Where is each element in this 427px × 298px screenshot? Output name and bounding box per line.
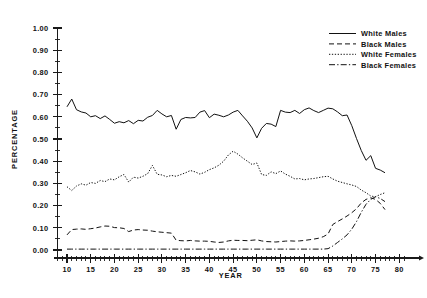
legend-label-black-males: Black Males xyxy=(361,40,407,49)
x-tick-label: 40 xyxy=(205,265,214,274)
legend-label-white-males: White Males xyxy=(361,29,407,38)
x-tick-label: 65 xyxy=(324,265,333,274)
x-tick-label: 55 xyxy=(276,265,285,274)
y-tick-label: 0.00 xyxy=(33,246,49,255)
line-chart: 0.000.100.200.300.400.500.600.700.800.90… xyxy=(0,0,427,298)
x-tick-label: 75 xyxy=(371,265,380,274)
x-tick-label: 70 xyxy=(347,265,356,274)
y-tick-label: 0.50 xyxy=(33,135,49,144)
y-tick-label: 0.80 xyxy=(33,68,49,77)
y-tick-label: 0.40 xyxy=(33,157,49,166)
y-tick-label: 0.70 xyxy=(33,90,49,99)
x-tick-label: 50 xyxy=(252,265,261,274)
x-tick-label: 15 xyxy=(86,265,95,274)
y-tick-label: 0.20 xyxy=(33,201,49,210)
y-tick-label: 0.30 xyxy=(33,179,49,188)
legend-label-black-females: Black Females xyxy=(361,61,416,70)
x-tick-label: 10 xyxy=(62,265,71,274)
x-tick-label: 30 xyxy=(157,265,166,274)
y-tick-label: 0.60 xyxy=(33,113,49,122)
y-tick-label: 0.10 xyxy=(33,224,49,233)
y-tick-label: 0.90 xyxy=(33,46,49,55)
x-tick-label: 80 xyxy=(395,265,404,274)
x-tick-label: 25 xyxy=(134,265,143,274)
y-tick-label: 1.00 xyxy=(33,24,49,33)
chart-container: 0.000.100.200.300.400.500.600.700.800.90… xyxy=(0,0,427,298)
legend-label-white-females: White Females xyxy=(361,50,417,59)
x-tick-label: 35 xyxy=(181,265,190,274)
y-axis-title: PERCENTAGE xyxy=(10,109,19,169)
x-tick-label: 20 xyxy=(110,265,119,274)
x-axis-title: YEAR xyxy=(219,271,243,280)
x-tick-label: 60 xyxy=(300,265,309,274)
